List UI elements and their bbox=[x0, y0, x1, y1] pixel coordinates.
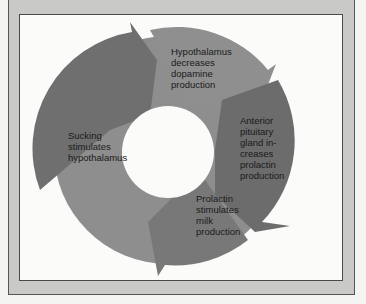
step-label-sucking: Sucking stimulates hypothalamus bbox=[68, 130, 127, 163]
step-label-anterior-pituitary: Anterior pituitary gland in- creases pro… bbox=[240, 115, 284, 181]
step-label-prolactin-milk: Prolactin stimulates milk production bbox=[196, 193, 240, 237]
step-label-hypothalamus-dopamine: Hypothalamus decreases dopamine producti… bbox=[171, 46, 232, 90]
